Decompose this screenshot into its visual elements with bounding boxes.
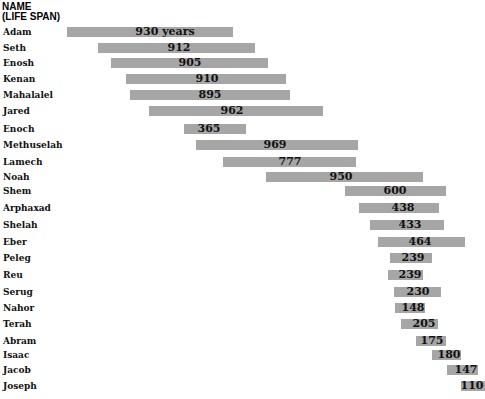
header-life-span: (LIFE SPAN) bbox=[2, 12, 60, 22]
lifespan-value: 230 bbox=[407, 285, 430, 299]
lifespan-bar: 230 bbox=[394, 287, 441, 297]
lifespan-value: 969 bbox=[264, 138, 287, 152]
lifespan-bar: 930 years bbox=[67, 27, 233, 37]
lifespan-bar: 148 bbox=[395, 303, 425, 313]
lifespan-value: 239 bbox=[399, 268, 422, 282]
person-name: Jacob bbox=[3, 365, 31, 375]
lifespan-value: 777 bbox=[279, 155, 302, 169]
lifespan-bar: 600 bbox=[345, 186, 446, 196]
person-name: Joseph bbox=[3, 381, 37, 391]
person-name: Kenan bbox=[3, 74, 35, 84]
lifespan-bar: 777 bbox=[223, 157, 356, 167]
person-name: Shem bbox=[3, 186, 31, 196]
lifespan-value: 180 bbox=[438, 348, 461, 362]
lifespan-bar: 205 bbox=[401, 319, 438, 329]
lifespan-bar: 905 bbox=[111, 58, 268, 68]
lifespan-bar: 950 bbox=[266, 172, 423, 182]
person-name: Enosh bbox=[3, 58, 34, 68]
person-name: Jared bbox=[3, 106, 30, 116]
lifespan-bar: 962 bbox=[149, 106, 323, 116]
chart-header: NAME (LIFE SPAN) bbox=[2, 2, 60, 22]
lifespan-bar: 912 bbox=[98, 43, 255, 53]
lifespan-bar: 910 bbox=[126, 74, 286, 84]
person-name: Terah bbox=[3, 319, 32, 329]
lifespan-value: 600 bbox=[384, 184, 407, 198]
lifespan-value: 239 bbox=[402, 251, 425, 265]
lifespan-value: 148 bbox=[402, 301, 425, 315]
person-name: Serug bbox=[3, 287, 33, 297]
lifespan-value: 110 bbox=[461, 379, 484, 393]
person-name: Nahor bbox=[3, 303, 34, 313]
lifespan-value: 205 bbox=[413, 317, 436, 331]
lifespan-value: 464 bbox=[409, 235, 432, 249]
lifespan-bar: 365 bbox=[184, 124, 246, 134]
lifespan-value: 962 bbox=[221, 104, 244, 118]
lifespan-bar: 175 bbox=[416, 336, 446, 346]
lifespan-value: 912 bbox=[168, 41, 191, 55]
lifespan-value: 147 bbox=[455, 363, 478, 377]
person-name: Adam bbox=[3, 27, 32, 37]
lifespan-bar: 438 bbox=[359, 203, 439, 213]
person-name: Methuselah bbox=[3, 140, 63, 150]
person-name: Lamech bbox=[3, 157, 42, 167]
lifespan-bar: 180 bbox=[432, 350, 461, 360]
person-name: Reu bbox=[3, 270, 23, 280]
lifespan-bar: 464 bbox=[378, 237, 465, 247]
person-name: Arphaxad bbox=[3, 203, 51, 213]
lifespan-bar: 969 bbox=[196, 140, 358, 150]
person-name: Seth bbox=[3, 43, 26, 53]
lifespan-value: 438 bbox=[392, 201, 415, 215]
lifespan-bar: 895 bbox=[130, 90, 290, 100]
person-name: Abram bbox=[3, 336, 36, 346]
lifespan-value: 175 bbox=[421, 334, 444, 348]
person-name: Peleg bbox=[3, 253, 31, 263]
lifespan-value: 910 bbox=[196, 72, 219, 86]
lifespan-bar: 433 bbox=[370, 220, 444, 230]
person-name: Shelah bbox=[3, 220, 38, 230]
person-name: Isaac bbox=[3, 350, 29, 360]
person-name: Noah bbox=[3, 172, 30, 182]
lifespan-value: 433 bbox=[399, 218, 422, 232]
lifespan-value: 950 bbox=[330, 170, 353, 184]
lifespan-value: 895 bbox=[199, 88, 222, 102]
person-name: Enoch bbox=[3, 124, 34, 134]
lifespan-value: 930 years bbox=[135, 25, 194, 39]
lifespan-bar: 239 bbox=[388, 270, 423, 280]
person-name: Mahalalel bbox=[3, 90, 53, 100]
lifespan-bar: 147 bbox=[447, 365, 478, 375]
lifespan-bar: 110 bbox=[461, 381, 485, 391]
lifespan-value: 365 bbox=[198, 122, 221, 136]
person-name: Eber bbox=[3, 237, 27, 247]
lifespan-value: 905 bbox=[179, 56, 202, 70]
lifespan-bar: 239 bbox=[390, 253, 432, 263]
